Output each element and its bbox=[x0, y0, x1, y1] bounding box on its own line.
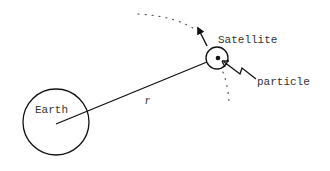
radius-line bbox=[56, 62, 207, 124]
radius-label: r bbox=[145, 94, 150, 106]
orbit-path bbox=[138, 14, 229, 101]
particle-pointer bbox=[224, 62, 256, 79]
velocity-arrow bbox=[199, 30, 207, 46]
earth-circle bbox=[23, 89, 89, 155]
particle-label: particle bbox=[257, 77, 310, 88]
particle-dot bbox=[216, 56, 221, 61]
earth-label: Earth bbox=[35, 105, 68, 116]
satellite-label: Satellite bbox=[218, 35, 277, 46]
